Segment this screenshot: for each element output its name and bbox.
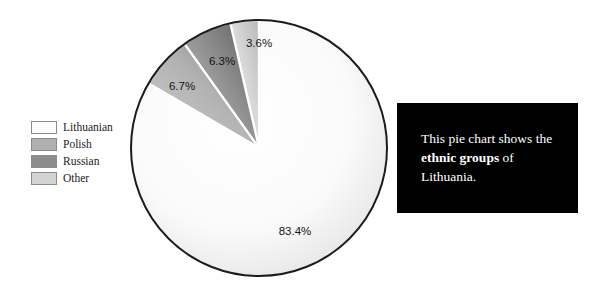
legend-swatch-russian	[31, 155, 57, 168]
legend-label-polish: Polish	[63, 138, 92, 151]
caption-line-2-prefix: the	[536, 131, 553, 146]
caption-line-3: Lithuania.	[421, 169, 476, 184]
slice-label-russian: 6.3%	[209, 55, 235, 67]
chart-canvas: Lithuanian Polish Russian Other	[0, 0, 607, 301]
caption-box: This pie chart shows the ethnic groups o…	[397, 103, 578, 213]
caption-emphasis: ethnic groups	[421, 150, 499, 165]
pie-chart: 83.4% 6.7% 6.3% 3.6%	[125, 12, 397, 290]
legend-swatch-other	[31, 172, 57, 185]
slice-label-lithuanian: 83.4%	[279, 225, 312, 237]
caption-line-1: This pie chart shows	[421, 131, 532, 146]
pie-slices	[131, 20, 387, 276]
slice-label-polish: 6.7%	[169, 80, 195, 92]
legend-swatch-lithuanian	[31, 121, 57, 134]
caption-line-2-suffix: of	[499, 150, 514, 165]
slice-label-other: 3.6%	[246, 37, 272, 49]
legend-swatch-polish	[31, 138, 57, 151]
legend-label-russian: Russian	[63, 155, 99, 168]
pie-chart-svg: 83.4% 6.7% 6.3% 3.6%	[125, 12, 397, 290]
caption-text: This pie chart shows the ethnic groups o…	[421, 129, 561, 186]
legend-label-other: Other	[63, 172, 89, 185]
legend-label-lithuanian: Lithuanian	[63, 121, 113, 134]
